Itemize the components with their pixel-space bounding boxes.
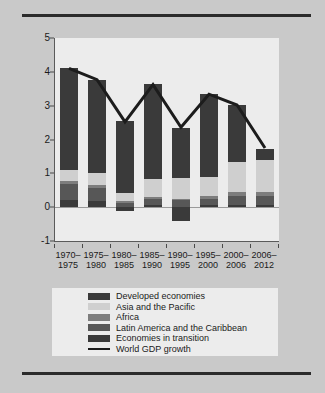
x-axis-tick-mark (110, 244, 111, 248)
legend-color-swatch (88, 303, 110, 310)
x-axis-tick-label-line: 1990 (137, 260, 167, 270)
y-axis-tick-label: -1 (28, 236, 50, 246)
x-axis-tick-mark (166, 244, 167, 248)
plot-area (54, 38, 279, 242)
x-axis-tick-label: 1990–1995 (165, 250, 195, 270)
x-axis-tick-mark (222, 244, 223, 248)
x-axis-tick-label-line: 1985– (137, 250, 167, 260)
x-axis-tick-label-line: 2012 (249, 260, 279, 270)
world-gdp-growth-line (55, 38, 279, 241)
y-axis-tick-label: 0 (28, 202, 50, 212)
x-axis-tick-label: 1970–1975 (53, 250, 83, 270)
legend-item-label: Developed economies (116, 291, 205, 301)
legend-color-swatch (88, 324, 110, 331)
x-axis-tick-mark (194, 244, 195, 248)
world-gdp-growth-polyline (69, 68, 265, 148)
x-axis-tick-label-line: 2000– (221, 250, 251, 260)
legend-item-label: Africa (116, 312, 139, 322)
chart-legend: Developed economiesAsia and the PacificA… (52, 288, 278, 356)
x-axis-tick-label: 1975–1980 (81, 250, 111, 270)
x-axis-tick-mark (138, 244, 139, 248)
x-axis-tick-mark (278, 244, 279, 248)
legend-color-swatch (88, 293, 110, 300)
y-axis: -1012345 (26, 38, 50, 241)
x-axis-tick-label-line: 2006 (221, 260, 251, 270)
x-axis-tick-label-line: 1990– (165, 250, 195, 260)
x-axis-tick-label-line: 1970– (53, 250, 83, 260)
x-axis-tick-label-line: 2000 (193, 260, 223, 270)
x-axis-tick-mark (54, 244, 55, 248)
bottom-rule (22, 372, 311, 375)
x-axis-tick-label-line: 2006– (249, 250, 279, 260)
x-axis-tick-label: 1980–1985 (109, 250, 139, 270)
legend-item-label: Latin America and the Caribbean (116, 323, 247, 333)
x-axis-tick-label-line: 1985 (109, 260, 139, 270)
x-axis: 1970–19751975–19801980–19851985–19901990… (54, 244, 278, 274)
legend-item[interactable]: Economies in transition (52, 333, 278, 344)
x-axis-tick-label-line: 1980– (109, 250, 139, 260)
legend-line-swatch (88, 348, 110, 351)
top-rule (22, 14, 311, 17)
legend-item[interactable]: Africa (52, 312, 278, 323)
legend-item-label: Economies in transition (116, 333, 209, 343)
legend-color-swatch (88, 314, 110, 321)
x-axis-tick-mark (250, 244, 251, 248)
x-axis-tick-label-line: 1995 (165, 260, 195, 270)
y-axis-tick-label: 5 (28, 33, 50, 43)
y-axis-tick-label: 2 (28, 135, 50, 145)
legend-item-label: Asia and the Pacific (116, 302, 195, 312)
legend-item[interactable]: Asia and the Pacific (52, 302, 278, 313)
x-axis-tick-label-line: 1975– (81, 250, 111, 260)
x-axis-tick-label-line: 1995– (193, 250, 223, 260)
y-axis-tick-label: 1 (28, 168, 50, 178)
x-axis-tick-label: 2006–2012 (249, 250, 279, 270)
legend-color-swatch (88, 335, 110, 342)
legend-item-label: World GDP growth (116, 344, 191, 354)
legend-item[interactable]: World GDP growth (52, 344, 278, 355)
legend-item[interactable]: Developed economies (52, 291, 278, 302)
x-axis-tick-mark (82, 244, 83, 248)
x-axis-tick-label-line: 1980 (81, 260, 111, 270)
x-axis-tick-label: 1995–2000 (193, 250, 223, 270)
legend-item[interactable]: Latin America and the Caribbean (52, 323, 278, 334)
x-axis-tick-label: 2000–2006 (221, 250, 251, 270)
y-axis-tick-label: 3 (28, 101, 50, 111)
y-axis-tick-label: 4 (28, 67, 50, 77)
x-axis-tick-label-line: 1975 (53, 260, 83, 270)
x-axis-tick-label: 1985–1990 (137, 250, 167, 270)
chart-page: -1012345 1970–19751975–19801980–19851985… (0, 0, 325, 393)
